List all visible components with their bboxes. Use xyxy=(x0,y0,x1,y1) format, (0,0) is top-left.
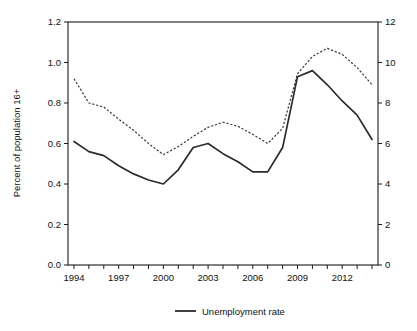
right-axis-tick-label: 0 xyxy=(385,259,390,270)
chart-legend: Unemployment rate xyxy=(175,306,285,317)
x-axis: 1994199720002003200620092012 xyxy=(63,265,372,283)
data-series-group xyxy=(74,48,372,184)
left-y-axis: 0.00.20.40.60.81.01.2 xyxy=(48,16,68,270)
plot-frame xyxy=(68,22,378,265)
x-axis-tick-label: 2012 xyxy=(332,272,353,283)
line-chart: 0.00.20.40.60.81.01.2 024681012 19941997… xyxy=(0,0,417,331)
left-axis-tick-label: 0.6 xyxy=(48,138,61,149)
y-axis-title: Percent of population 16+ xyxy=(11,88,22,197)
right-axis-tick-label: 6 xyxy=(385,138,390,149)
x-axis-tick-label: 1997 xyxy=(108,272,129,283)
right-axis-tick-label: 8 xyxy=(385,97,390,108)
left-axis-tick-label: 0.2 xyxy=(48,219,61,230)
right-y-axis: 024681012 xyxy=(378,16,396,270)
legend-label-unemployment-rate: Unemployment rate xyxy=(202,306,285,317)
left-axis-tick-label: 1.2 xyxy=(48,16,61,27)
right-axis-tick-label: 2 xyxy=(385,219,390,230)
right-axis-tick-label: 10 xyxy=(385,57,396,68)
plot-area-border xyxy=(68,22,378,265)
series-line-unemployment-rate xyxy=(74,71,372,184)
x-axis-tick-label: 2009 xyxy=(287,272,308,283)
left-axis-tick-label: 1.0 xyxy=(48,57,61,68)
left-axis-tick-label: 0.0 xyxy=(48,259,61,270)
chart-figure: 0.00.20.40.60.81.01.2 024681012 19941997… xyxy=(0,0,417,331)
x-axis-tick-label: 2000 xyxy=(153,272,174,283)
x-axis-tick-label: 2003 xyxy=(198,272,219,283)
x-axis-tick-label: 2006 xyxy=(242,272,263,283)
left-axis-tick-label: 0.4 xyxy=(48,178,61,189)
left-axis-tick-label: 0.8 xyxy=(48,97,61,108)
x-axis-tick-label: 1994 xyxy=(63,272,84,283)
right-axis-tick-label: 4 xyxy=(385,178,390,189)
series-line-dotted xyxy=(74,48,372,154)
right-axis-tick-label: 12 xyxy=(385,16,396,27)
